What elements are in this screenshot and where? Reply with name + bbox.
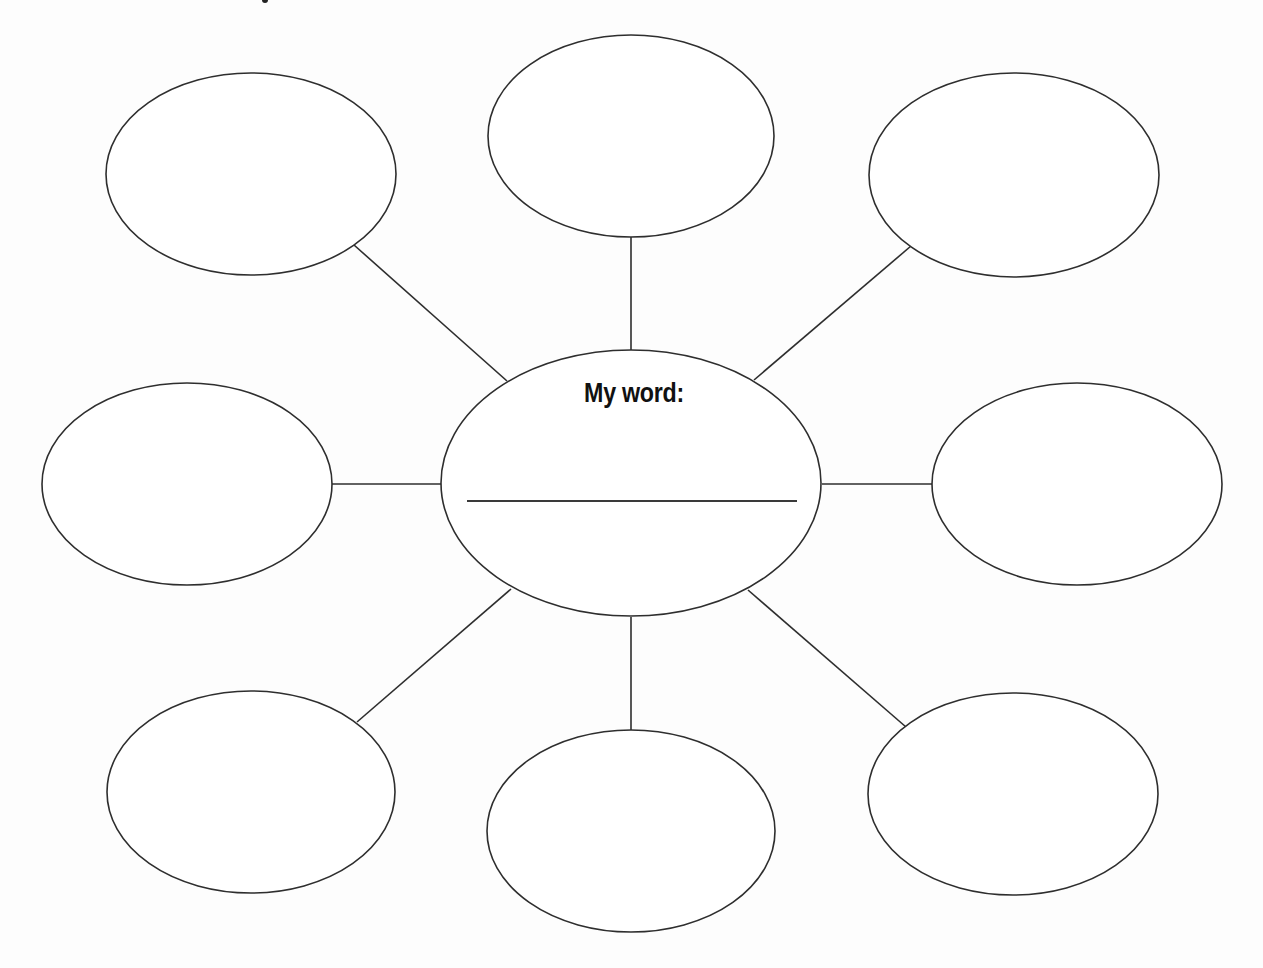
bubble-top-right[interactable] bbox=[869, 73, 1159, 277]
connector-line-top-left bbox=[354, 245, 507, 381]
bubble-bottom-center[interactable] bbox=[487, 730, 775, 932]
bubble-bottom-right[interactable] bbox=[868, 693, 1158, 895]
concept-web-diagram bbox=[0, 0, 1263, 968]
bubble-middle-right[interactable] bbox=[932, 383, 1222, 585]
center-label-my-word: My word: bbox=[584, 380, 684, 407]
connector-line-bottom-right bbox=[748, 590, 906, 727]
bubble-top-left[interactable] bbox=[106, 73, 396, 275]
bubble-bottom-left[interactable] bbox=[107, 691, 395, 893]
bubble-top-center[interactable] bbox=[488, 35, 774, 237]
connector-line-bottom-left bbox=[357, 589, 511, 722]
connector-line-top-right bbox=[754, 246, 911, 380]
bubble-middle-left[interactable] bbox=[42, 383, 332, 585]
